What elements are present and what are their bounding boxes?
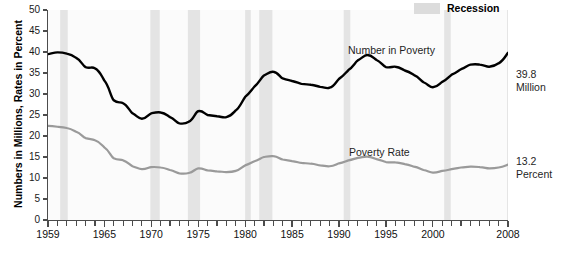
- x-tick-1959: [47, 221, 48, 227]
- x-tick-1995: [385, 221, 386, 227]
- rate-end-annotation: 13.2 Percent: [516, 155, 552, 180]
- y-tick-label-20: 20: [14, 131, 40, 141]
- x-axis-line: [47, 220, 508, 221]
- number-end-unit: Million: [516, 81, 546, 94]
- y-tick-label-text: 30: [16, 89, 40, 99]
- recession-1970: [150, 10, 159, 220]
- y-tick-label-text: 5: [16, 194, 40, 204]
- number-end-annotation: 39.8 Million: [516, 68, 546, 93]
- x-tick-1974: [188, 221, 189, 226]
- x-tick-1993: [367, 221, 368, 226]
- rate-end-unit: Percent: [516, 168, 552, 181]
- x-tick-2006: [489, 221, 490, 226]
- x-tick-1998: [414, 221, 415, 226]
- x-tick-label-1959: 1959: [27, 228, 69, 240]
- number-end-value: 39.8: [516, 68, 546, 81]
- x-tick-2001: [442, 221, 443, 226]
- number-in-poverty-line: [48, 52, 508, 123]
- y-tick-15: [43, 156, 47, 157]
- x-tick-label-2000: 2000: [412, 228, 454, 240]
- x-tick-1969: [141, 221, 142, 226]
- x-tick-1962: [76, 221, 77, 226]
- x-tick-1994: [376, 221, 377, 226]
- x-tick-1965: [104, 221, 105, 227]
- recession-1990: [344, 10, 351, 220]
- y-tick-label-text: 25: [16, 110, 40, 120]
- x-tick-1991: [348, 221, 349, 226]
- x-tick-1981: [254, 221, 255, 226]
- x-tick-1976: [207, 221, 208, 226]
- recession-2008: [507, 10, 508, 220]
- x-tick-1982: [263, 221, 264, 226]
- x-tick-1960: [57, 221, 58, 226]
- y-tick-label-text: 40: [16, 47, 40, 57]
- y-tick-label-0: 0: [14, 215, 40, 225]
- x-tick-1988: [320, 221, 321, 226]
- y-tick-10: [43, 177, 47, 178]
- x-tick-2004: [470, 221, 471, 226]
- x-tick-1978: [226, 221, 227, 226]
- x-tick-1990: [338, 221, 339, 227]
- recession-1982: [259, 10, 272, 220]
- y-axis-line: [47, 10, 48, 221]
- x-tick-label-1995: 1995: [365, 228, 407, 240]
- y-tick-label-15: 15: [14, 152, 40, 162]
- y-tick-25: [43, 114, 47, 115]
- legend-label-recession: Recession: [447, 2, 500, 14]
- x-tick-1961: [66, 221, 67, 226]
- y-tick-label-text: 10: [16, 173, 40, 183]
- recession-2001: [444, 10, 451, 220]
- x-tick-1980: [245, 221, 246, 227]
- x-tick-label-1970: 1970: [130, 228, 172, 240]
- x-tick-label-1985: 1985: [271, 228, 313, 240]
- y-tick-label-text: 35: [16, 68, 40, 78]
- y-tick-label-text: 45: [16, 26, 40, 36]
- x-tick-label-2008: 2008: [487, 228, 529, 240]
- y-tick-20: [43, 135, 47, 136]
- x-tick-1984: [282, 221, 283, 226]
- x-tick-1986: [301, 221, 302, 226]
- series-label-number-in-poverty: Number in Poverty: [348, 44, 435, 56]
- x-tick-2000: [432, 221, 433, 227]
- x-tick-1987: [310, 221, 311, 226]
- x-tick-2002: [451, 221, 452, 226]
- y-tick-label-text: 15: [16, 152, 40, 162]
- x-tick-1985: [291, 221, 292, 227]
- x-tick-1983: [273, 221, 274, 226]
- poverty-rate-line: [48, 126, 508, 174]
- x-tick-1973: [179, 221, 180, 226]
- chart-container: Numbers in Millions, Rates in Percent 05…: [0, 0, 564, 253]
- x-tick-2007: [498, 221, 499, 226]
- recession-1980: [245, 10, 251, 220]
- x-tick-2008: [507, 221, 508, 227]
- y-tick-30: [43, 93, 47, 94]
- x-tick-2005: [479, 221, 480, 226]
- y-tick-label-text: 0: [16, 215, 40, 225]
- y-tick-label-40: 40: [14, 47, 40, 57]
- x-tick-1977: [216, 221, 217, 226]
- x-tick-label-1975: 1975: [177, 228, 219, 240]
- x-tick-label-1990: 1990: [318, 228, 360, 240]
- x-tick-1966: [113, 221, 114, 226]
- x-tick-1968: [132, 221, 133, 226]
- legend: Recession: [414, 2, 500, 14]
- y-tick-label-45: 45: [14, 26, 40, 36]
- x-tick-1979: [235, 221, 236, 226]
- x-tick-label-1965: 1965: [83, 228, 125, 240]
- x-tick-1989: [329, 221, 330, 226]
- x-tick-2003: [460, 221, 461, 226]
- y-tick-label-text: 50: [16, 5, 40, 15]
- recession-1960: [60, 10, 68, 220]
- x-tick-1964: [94, 221, 95, 226]
- x-tick-1963: [85, 221, 86, 226]
- recession-bands: [60, 10, 508, 220]
- x-tick-1997: [404, 221, 405, 226]
- y-tick-50: [43, 9, 47, 10]
- x-tick-1970: [151, 221, 152, 227]
- series-label-poverty-rate: Poverty Rate: [349, 146, 410, 158]
- y-tick-label-5: 5: [14, 194, 40, 204]
- chart-svg: [48, 10, 508, 220]
- y-tick-label-25: 25: [14, 110, 40, 120]
- x-tick-1967: [123, 221, 124, 226]
- x-tick-label-1980: 1980: [224, 228, 266, 240]
